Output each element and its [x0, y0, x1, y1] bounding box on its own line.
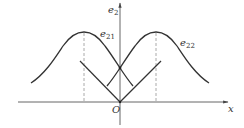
membership-function-diagram: e2 e21 e22 O x: [0, 0, 244, 128]
y-axis-label-sub: 2: [114, 9, 118, 17]
origin-point: [119, 101, 121, 103]
curve-e22-label-sub: 22: [186, 42, 195, 50]
v-line-left: [80, 61, 120, 102]
curve-e22-label: e22: [180, 38, 195, 50]
v-line-right: [120, 61, 161, 102]
curve-e21-label-sub: 21: [106, 33, 115, 41]
y-axis-label: e2: [108, 5, 118, 17]
diagram-canvas: [0, 0, 244, 128]
origin-label: O: [112, 105, 120, 115]
x-axis-label: x: [228, 104, 234, 114]
intersection-point: [119, 67, 122, 70]
curve-e21: [31, 32, 133, 86]
curve-e21-label: e21: [100, 29, 115, 41]
